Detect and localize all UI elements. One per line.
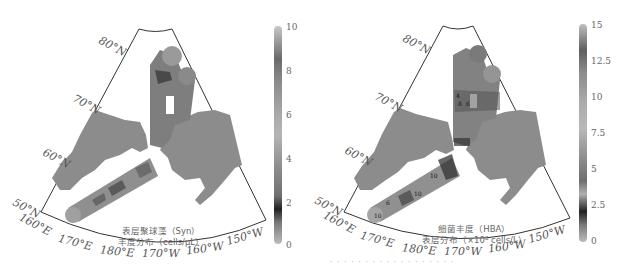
syn-caption-line1: 表层聚球藻（Syn） xyxy=(118,226,204,237)
track-gap xyxy=(166,96,174,114)
hba-colorbar xyxy=(579,24,587,242)
hba-cb-tick: 7.5 xyxy=(591,128,605,138)
track-cap-a xyxy=(162,46,182,66)
contour-label: 10 xyxy=(430,172,438,179)
contour-label: 8 xyxy=(458,100,462,107)
contour-label: 10 xyxy=(374,212,382,219)
track-cap-c xyxy=(65,207,81,223)
hba-caption-line2: 表层分布（×10⁸ cells/L） xyxy=(422,235,527,246)
syn-cb-tick: 4 xyxy=(286,154,292,164)
hba-cb-tick: 10 xyxy=(591,92,602,102)
hba-cb-tick: 0 xyxy=(591,236,597,246)
hba-caption-line1: 细菌丰度（HBA） xyxy=(422,224,527,235)
contour-label: 10 xyxy=(414,190,422,197)
figure-caption-faint: · · · · · · · · · · · · · · · · · · xyxy=(330,258,454,267)
contour-label: 6 xyxy=(466,100,470,107)
syn-cb-tick: 0 xyxy=(286,240,292,250)
hba-cb-tick: 12.5 xyxy=(591,56,611,66)
contour-label: 4 xyxy=(456,92,460,99)
hba-map-panel: 10 10 6 10 4 8 6 80°N 70°N 60°N 50°N 160… xyxy=(310,0,617,270)
hba-cb-tick: 2.5 xyxy=(591,200,605,210)
syn-cb-tick: 6 xyxy=(286,110,292,120)
track-cap-b xyxy=(483,65,501,83)
hba-cb-tick: 5 xyxy=(591,164,597,174)
contour-label: 6 xyxy=(386,199,390,206)
syn-cb-tick: 10 xyxy=(286,22,297,32)
hba-caption: 细菌丰度（HBA） 表层分布（×10⁸ cells/L） xyxy=(422,224,527,246)
track-cap-b xyxy=(178,67,196,85)
syn-caption-line2: 丰度分布（cells/μL） xyxy=(118,237,204,248)
hba-cb-tick: 15 xyxy=(591,20,602,30)
lon-label-170w: 170°W xyxy=(142,247,180,260)
syn-map-panel: 80°N 70°N 60°N 50°N 160°E 170°E 180°E 17… xyxy=(0,0,308,270)
lon-label-170w: 170°W xyxy=(444,245,482,258)
syn-colorbar xyxy=(274,26,282,244)
syn-caption: 表层聚球藻（Syn） 丰度分布（cells/μL） xyxy=(118,226,204,248)
track-cap-a xyxy=(469,45,487,63)
syn-cb-tick: 8 xyxy=(286,66,292,76)
syn-cb-tick: 2 xyxy=(286,198,292,208)
